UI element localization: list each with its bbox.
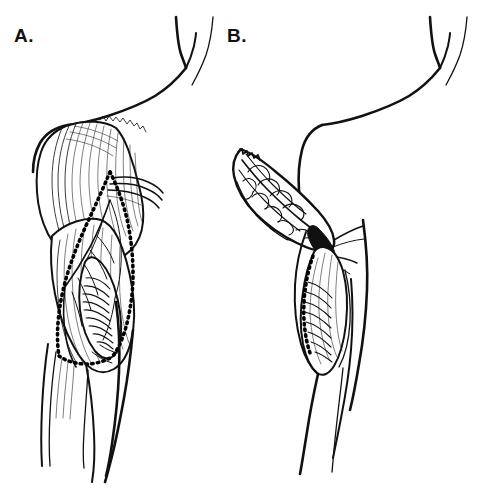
panel-b-label: B.: [227, 25, 247, 46]
panel-a-label: A.: [14, 25, 34, 46]
figure-container: A.: [0, 0, 485, 492]
medical-illustration-svg: A.: [0, 0, 485, 492]
